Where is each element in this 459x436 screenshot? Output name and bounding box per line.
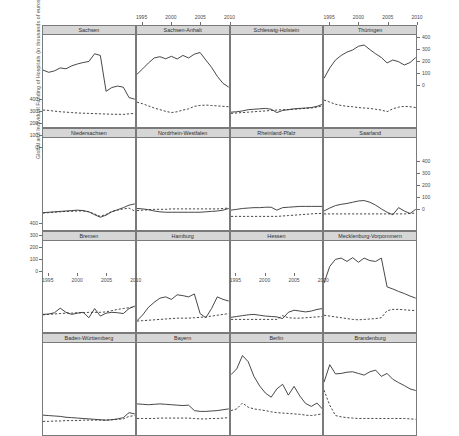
series-individual (324, 100, 416, 112)
series-individual (324, 309, 416, 319)
y-tick-left (39, 271, 42, 272)
y-tick-label-right: 100 (422, 70, 440, 76)
series-global (137, 404, 229, 412)
panel-strip-label: Saarland (323, 128, 417, 138)
panel-niedersachsen: Niedersachsen (42, 128, 136, 231)
y-tick-label-left: 200 (20, 244, 38, 250)
y-tick-label-left: 400 (20, 220, 38, 226)
panel-sachsen: Sachsen (42, 25, 136, 128)
x-tick-label-top: 2005 (194, 14, 206, 20)
y-tick-label-left: 200 (20, 120, 38, 126)
panel-strip-label: Mecklenburg-Vorpommern (323, 231, 417, 241)
series-individual (324, 213, 416, 214)
series-individual (324, 390, 416, 419)
panel-strip-label: Thüringen (323, 25, 417, 35)
panel-th-ringen: Thüringen (323, 25, 417, 128)
x-tick-label-bottom: 2000 (259, 277, 271, 283)
x-tick-top (230, 22, 231, 25)
x-tick-top (142, 22, 143, 25)
panel-plot-area (42, 138, 136, 231)
x-tick-top (329, 22, 330, 25)
x-tick-top (171, 22, 172, 25)
x-tick-label-top: 1995 (136, 14, 148, 20)
series-global (43, 54, 135, 99)
y-axis-label: Global and Individual Funding of Hospita… (35, 0, 41, 163)
series-global (324, 45, 416, 78)
x-tick-label-top: 2005 (382, 14, 394, 20)
x-tick-label-bottom: 2000 (71, 277, 83, 283)
y-tick-label-right: 0 (422, 206, 440, 212)
panel-strip-label: Bremen (42, 231, 136, 241)
panel-strip-label: Nordrhein-Westfalen (136, 128, 230, 138)
panel-plot-area (230, 241, 324, 334)
x-tick-top (388, 22, 389, 25)
x-tick-label-top: 2010 (224, 14, 236, 20)
x-tick-bottom (323, 273, 324, 276)
y-tick-left (39, 223, 42, 224)
y-tick-right (417, 61, 420, 62)
y-tick-left (39, 99, 42, 100)
y-tick-right (417, 161, 420, 162)
x-tick-top (200, 22, 201, 25)
series-global (137, 53, 229, 88)
panel-bayern: Bayern (136, 333, 230, 436)
y-tick-label-right: 200 (422, 182, 440, 188)
series-global (324, 257, 416, 297)
panel-strip-label: Berlin (230, 333, 324, 343)
panel-plot-area (323, 241, 417, 334)
y-tick-label-right: 400 (422, 34, 440, 40)
y-tick-right (417, 37, 420, 38)
panel-plot-area (323, 35, 417, 128)
series-individual (231, 213, 323, 216)
series-individual (137, 313, 229, 321)
panel-plot-area (230, 343, 324, 436)
x-tick-top (417, 22, 418, 25)
panel-plot-area (136, 35, 230, 128)
y-tick-label-left: 300 (20, 232, 38, 238)
y-tick-label-right: 400 (422, 158, 440, 164)
panel-hamburg: Hamburg (136, 231, 230, 334)
series-global (231, 308, 323, 318)
series-individual (231, 315, 323, 319)
x-tick-bottom (77, 273, 78, 276)
panel-strip-label: Bayern (136, 333, 230, 343)
y-tick-label-right: 300 (422, 46, 440, 52)
panel-plot-area (42, 343, 136, 436)
x-tick-label-bottom: 2005 (288, 277, 300, 283)
x-tick-bottom (136, 273, 137, 276)
y-tick-right (417, 49, 420, 50)
x-tick-label-top: 1995 (323, 14, 335, 20)
y-tick-right (417, 209, 420, 210)
y-tick-label-right: 0 (422, 82, 440, 88)
x-tick-bottom (106, 273, 107, 276)
panel-plot-area (136, 343, 230, 436)
series-global (231, 206, 323, 210)
panel-baden-w-rttemberg: Baden-Württemberg (42, 333, 136, 436)
panel-grid: SachsenSachsen-AnhaltSchleswig-HolsteinT… (42, 25, 417, 273)
panel-hessen: Hessen (230, 231, 324, 334)
x-tick-label-bottom: 1995 (42, 277, 54, 283)
panel-strip-label: Sachsen (42, 25, 136, 35)
y-tick-left (39, 147, 42, 148)
series-global (43, 204, 135, 217)
x-tick-top (358, 22, 359, 25)
y-tick-label-left: 100 (20, 132, 38, 138)
panel-strip-label: Schleswig-Holstein (230, 25, 324, 35)
panel-strip-label: Sachsen-Anhalt (136, 25, 230, 35)
panel-strip-label: Hamburg (136, 231, 230, 241)
panel-strip-label: Rheinland-Pfalz (230, 128, 324, 138)
panel-plot-area (42, 35, 136, 128)
x-tick-bottom (48, 273, 49, 276)
panel-plot-area (136, 138, 230, 231)
y-tick-label-right: 100 (422, 194, 440, 200)
y-tick-left (39, 259, 42, 260)
panel-plot-area (230, 138, 324, 231)
panel-strip-label: Niedersachsen (42, 128, 136, 138)
panel-brandenburg: Brandenburg (323, 333, 417, 436)
y-tick-label-left: 0 (20, 268, 38, 274)
x-tick-label-top: 2000 (165, 14, 177, 20)
y-tick-left (39, 123, 42, 124)
panel-strip-label: Brandenburg (323, 333, 417, 343)
x-tick-bottom (294, 273, 295, 276)
